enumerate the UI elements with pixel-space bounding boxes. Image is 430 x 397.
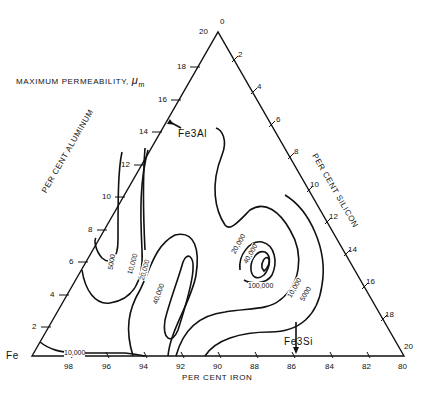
tick-right: 14 [348, 245, 357, 254]
tick-bottom: 84 [325, 362, 334, 371]
title-text: MAXIMUM PERMEABILITY, [16, 77, 129, 86]
tick-right: 6 [276, 115, 280, 124]
diagram-canvas [0, 0, 430, 397]
fe3si-arrowhead [293, 347, 299, 354]
title-subscript: m [138, 81, 144, 88]
tick-bottom: 86 [287, 362, 296, 371]
tick-bottom: 82 [362, 362, 371, 371]
contour-label: 10,000 [64, 349, 85, 357]
compound-label-fe3al: Fe3Al [178, 128, 207, 139]
tick-left: 6 [69, 257, 73, 266]
tick-left: 4 [50, 290, 54, 299]
tick-bottom: 88 [250, 362, 259, 371]
tick-left: 2 [32, 322, 36, 331]
compound-label-fe3si: Fe3Si [284, 336, 313, 347]
ternary-diagram: MAXIMUM PERMEABILITY, μm Fe Fe3Al Fe3Si … [0, 0, 430, 397]
contour-lines [40, 122, 323, 356]
tick-left: 18 [177, 62, 186, 71]
tick-right: 12 [329, 212, 338, 221]
axis-label-iron: PER CENT IRON [182, 373, 252, 382]
tick-left: 20 [199, 27, 208, 36]
diagram-title: MAXIMUM PERMEABILITY, μm [16, 74, 145, 88]
tick-right: 8 [294, 147, 298, 156]
tick-left: 16 [158, 95, 167, 104]
contour-label: 100,000 [248, 282, 273, 290]
corner-label-fe: Fe [6, 350, 19, 361]
tick-bottom: 80 [398, 362, 407, 371]
tick-left: 12 [121, 160, 130, 169]
tick-left: 10 [102, 192, 111, 201]
tick-right: 16 [366, 277, 375, 286]
tick-left: 8 [88, 225, 92, 234]
tick-bottom: 96 [102, 362, 111, 371]
tick-right: 20 [404, 342, 413, 351]
tick-bottom: 90 [213, 362, 222, 371]
tick-right: 0 [220, 17, 224, 26]
tick-bottom: 98 [64, 362, 73, 371]
tick-right: 10 [310, 180, 319, 189]
tick-right: 2 [238, 50, 242, 59]
tick-bottom: 94 [139, 362, 148, 371]
tick-bottom: 92 [176, 362, 185, 371]
tick-right: 4 [257, 82, 261, 91]
tick-right: 18 [385, 310, 394, 319]
axis-ticks [41, 56, 387, 358]
tick-left: 14 [139, 127, 148, 136]
